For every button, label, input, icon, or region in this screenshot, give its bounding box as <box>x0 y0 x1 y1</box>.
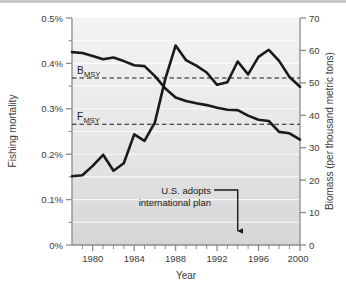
bmsy-label-base: B <box>77 65 84 76</box>
left-tick-label-1: 0.4% <box>41 58 63 69</box>
x-tick-label-1980: 1980 <box>82 253 103 264</box>
left-tick-label-0: 0.5% <box>41 13 63 24</box>
y-axis-title: Fishing mortality <box>7 95 18 168</box>
fmsy-label-subscript: MSY <box>84 116 100 125</box>
right-tick-label-20: 20 <box>309 175 320 186</box>
right-axis-tick-labels: 70 60 50 40 30 20 10 0 <box>309 13 320 251</box>
left-tick-label-2: 0.3% <box>41 103 63 114</box>
right-tick-label-70: 70 <box>309 13 320 24</box>
x-tick-label-2000: 2000 <box>287 253 308 264</box>
left-tick-label-4: 0.1% <box>41 194 63 205</box>
y2-axis-title: Biomass (per thousand metric tons) <box>324 52 335 210</box>
annotation-line-2: international plan <box>139 197 211 208</box>
chart-figure: 0.5% 0.4% 0.3% 0.2% 0.1% 0% 70 60 50 40 … <box>0 0 346 292</box>
annotation-line-1: U.S. adopts <box>161 185 211 196</box>
right-tick-label-50: 50 <box>309 77 320 88</box>
bmsy-label-subscript: MSY <box>84 70 100 79</box>
right-tick-label-60: 60 <box>309 45 320 56</box>
right-tick-label-0: 0 <box>309 240 314 251</box>
x-axis-tick-labels: 1980 1984 1988 1992 1996 2000 <box>82 253 308 264</box>
right-tick-label-30: 30 <box>309 142 320 153</box>
right-axis-ticks <box>300 18 306 245</box>
right-tick-label-10: 10 <box>309 207 320 218</box>
right-tick-label-40: 40 <box>309 110 320 121</box>
left-tick-label-5: 0% <box>49 240 63 251</box>
fmsy-label-base: F <box>77 111 83 122</box>
fishing-mortality-biomass-chart: 0.5% 0.4% 0.3% 0.2% 0.1% 0% 70 60 50 40 … <box>0 0 346 292</box>
x-tick-label-1996: 1996 <box>248 253 269 264</box>
x-tick-label-1988: 1988 <box>165 253 186 264</box>
left-axis-tick-labels: 0.5% 0.4% 0.3% 0.2% 0.1% 0% <box>41 13 63 251</box>
x-axis-title: Year <box>176 270 197 281</box>
x-tick-label-1984: 1984 <box>124 253 145 264</box>
left-tick-label-3: 0.2% <box>41 149 63 160</box>
top-divider-rule <box>0 0 346 3</box>
x-tick-label-1992: 1992 <box>207 253 228 264</box>
